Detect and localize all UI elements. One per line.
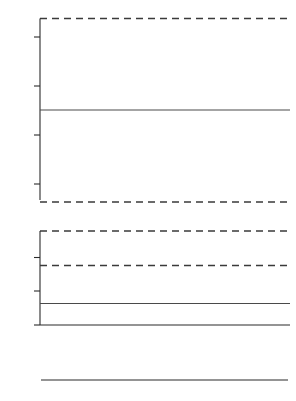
xbar-y-ticks [34, 37, 40, 184]
control-chart-svg [0, 0, 296, 401]
range-y-ticks [34, 258, 40, 326]
xbar-chart-group [34, 19, 290, 203]
range-chart-group [34, 231, 290, 325]
control-chart-figure [0, 0, 296, 401]
